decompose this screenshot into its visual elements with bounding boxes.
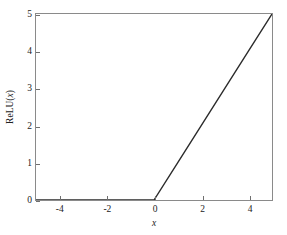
x-tick-minus4 bbox=[60, 196, 61, 200]
y-tick-5 bbox=[36, 15, 40, 16]
relu-polyline bbox=[36, 14, 272, 200]
x-tick-0 bbox=[155, 196, 156, 200]
y-tick-2 bbox=[36, 127, 40, 128]
y-axis-label-prefix: ReLU( bbox=[5, 98, 15, 124]
x-ticklabel-4: 4 bbox=[248, 205, 253, 215]
y-tick-1 bbox=[36, 164, 40, 165]
y-ticklabel-4: 4 bbox=[27, 47, 32, 57]
x-tick-4 bbox=[250, 196, 251, 200]
y-tick-0 bbox=[36, 201, 40, 202]
y-ticklabel-3: 3 bbox=[27, 84, 32, 94]
y-axis-label: ReLU(x) bbox=[6, 90, 16, 124]
y-ticklabel-0: 0 bbox=[27, 196, 32, 206]
x-tick-2 bbox=[203, 196, 204, 200]
x-ticklabel-minus4: -4 bbox=[56, 205, 64, 215]
y-tick-3 bbox=[36, 89, 40, 90]
figure-canvas: 0 1 2 3 4 5 -4 -2 0 2 4 x ReLU(x) bbox=[0, 0, 287, 235]
data-layer bbox=[36, 14, 272, 200]
y-ticklabel-5: 5 bbox=[27, 10, 32, 20]
y-axis-label-suffix: ) bbox=[5, 90, 15, 93]
x-ticklabel-2: 2 bbox=[200, 205, 205, 215]
y-ticklabel-1: 1 bbox=[27, 160, 32, 170]
x-axis-label: x bbox=[152, 219, 156, 229]
relu-curve bbox=[36, 14, 272, 200]
x-ticklabel-0: 0 bbox=[153, 205, 158, 215]
x-tick-minus2 bbox=[107, 196, 108, 200]
y-axis-label-var: x bbox=[5, 93, 15, 97]
x-ticklabel-minus2: -2 bbox=[103, 205, 111, 215]
plot-frame: 0 1 2 3 4 5 -4 -2 0 2 4 bbox=[35, 13, 273, 201]
y-tick-4 bbox=[36, 52, 40, 53]
y-ticklabel-2: 2 bbox=[27, 122, 32, 132]
